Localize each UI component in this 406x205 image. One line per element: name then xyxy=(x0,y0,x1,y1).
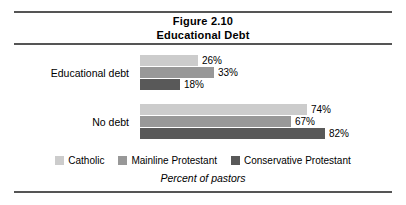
bar-mainline-protestant xyxy=(140,67,214,78)
bar-value-label: 74% xyxy=(311,104,331,115)
bar-row: 74% xyxy=(140,104,349,115)
legend-label: Mainline Protestant xyxy=(131,155,217,166)
bar-catholic xyxy=(140,55,198,66)
bar-row: 18% xyxy=(140,79,238,90)
bar-row: 67% xyxy=(140,116,349,127)
bar-series-no-debt: 74% 67% 82% xyxy=(140,104,349,139)
bar-value-label: 67% xyxy=(295,116,315,127)
figure-container: Figure 2.10 Educational Debt Educational… xyxy=(0,0,406,205)
bar-value-label: 26% xyxy=(202,55,222,66)
legend-item-mainline-protestant: Mainline Protestant xyxy=(118,155,217,166)
bar-group-educational-debt: Educational debt 26% 33% 18% xyxy=(0,55,406,90)
bar-conservative-protestant xyxy=(140,128,325,139)
bar-row: 82% xyxy=(140,128,349,139)
bar-mainline-protestant xyxy=(140,116,291,127)
chart-legend: Catholic Mainline Protestant Conservativ… xyxy=(0,155,406,166)
legend-item-conservative-protestant: Conservative Protestant xyxy=(231,155,351,166)
bar-chart-plot-area: Educational debt 26% 33% 18% No debt xyxy=(0,48,406,148)
bar-group-no-debt: No debt 74% 67% 82% xyxy=(0,104,406,139)
bar-series-educational-debt: 26% 33% 18% xyxy=(140,55,238,90)
title-separator-rule xyxy=(14,43,392,45)
legend-swatch-icon xyxy=(118,156,127,165)
bar-value-label: 33% xyxy=(218,67,238,78)
top-rule xyxy=(14,11,392,13)
legend-swatch-icon xyxy=(55,156,64,165)
category-label-no-debt: No debt xyxy=(0,104,134,139)
bottom-rule xyxy=(14,191,392,193)
legend-item-catholic: Catholic xyxy=(55,155,104,166)
bar-catholic xyxy=(140,104,307,115)
legend-label: Conservative Protestant xyxy=(244,155,351,166)
bar-row: 26% xyxy=(140,55,238,66)
bar-row: 33% xyxy=(140,67,238,78)
figure-title: Figure 2.10 Educational Debt xyxy=(14,14,392,42)
category-label-educational-debt: Educational debt xyxy=(0,55,134,90)
bar-value-label: 82% xyxy=(329,128,349,139)
x-axis-label: Percent of pastors xyxy=(0,172,406,184)
bar-conservative-protestant xyxy=(140,79,180,90)
figure-title-line1: Figure 2.10 xyxy=(14,14,392,28)
legend-label: Catholic xyxy=(68,155,104,166)
figure-title-line2: Educational Debt xyxy=(14,28,392,42)
bar-value-label: 18% xyxy=(184,79,204,90)
legend-swatch-icon xyxy=(231,156,240,165)
